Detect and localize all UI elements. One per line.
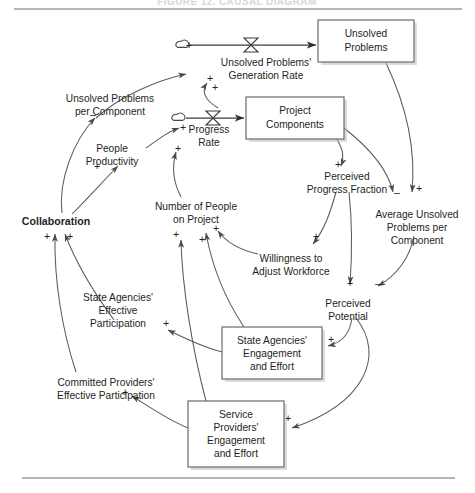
variable-committed-providers-effective-participation[interactable]: Committed Providers' Effective Participa… — [57, 377, 155, 401]
polarity-sign: + — [186, 39, 192, 51]
polarity-sign: + — [44, 230, 50, 242]
polarity-sign: + — [347, 277, 353, 289]
polarity-sign: – — [394, 186, 400, 198]
stock-label-line: Problems — [344, 42, 387, 53]
variable-label-line: Unsolved Problems — [66, 93, 154, 104]
stock-unsolved-problems[interactable]: Unsolved Problems — [318, 20, 417, 65]
variable-label-line: Potential — [328, 311, 368, 322]
cloud-icon-progress-rate — [172, 113, 185, 120]
polarity-sign: + — [199, 233, 205, 245]
link-nop-to-progress — [173, 152, 181, 197]
polarity-sign: + — [94, 160, 100, 172]
variable-label-line: Average Unsolved — [375, 209, 458, 220]
variable-label-line: Number of People — [155, 201, 237, 212]
polarity-sign: + — [285, 412, 291, 424]
variable-perceived-potential[interactable]: Perceived Potential — [325, 298, 371, 322]
variable-label-line: State Agencies' — [83, 292, 153, 303]
stock-label-line: Unsolved — [345, 28, 388, 39]
polarity-sign: + — [212, 81, 218, 93]
stock-layer: Unsolved Problems Project Components Sta… — [188, 20, 417, 470]
link-wtaw-to-nop — [218, 231, 258, 254]
variable-label-line: Problems per — [387, 222, 448, 233]
link-pc-to-aupc — [344, 128, 393, 192]
variable-label-line: People — [96, 143, 128, 154]
variable-label-line: Perceived — [324, 171, 370, 182]
link-spe-to-nop — [181, 240, 206, 401]
stock-state-agencies-engagement[interactable]: State Agencies' Engagement and Effort — [222, 327, 325, 382]
polarity-sign: + — [175, 142, 181, 154]
variable-label-line: Participation — [90, 318, 146, 329]
polarity-sign: + — [173, 228, 179, 240]
polarity-sign: + — [163, 317, 169, 329]
variable-label-line: Effective — [99, 305, 138, 316]
variable-perceived-progress-fraction[interactable]: Perceived Progress Fraction — [307, 171, 387, 195]
polarity-sign: + — [416, 182, 422, 194]
causal-loop-diagram: FIGURE 12. CAUSAL DIAGRAM — [0, 0, 475, 493]
variable-label-line: Progress Fraction — [307, 184, 387, 195]
stock-label-line: and Effort — [250, 361, 294, 372]
stock-label-line: State Agencies' — [237, 335, 307, 346]
link-collab-to-prod — [72, 166, 118, 214]
stock-label-line: Engagement — [243, 348, 301, 359]
link-sae-to-saep — [168, 330, 222, 352]
polarity-sign: + — [67, 230, 73, 242]
polarity-sign: – — [90, 108, 96, 120]
link-up-to-aupc — [386, 63, 413, 192]
variable-label-line: Willingness to — [260, 253, 323, 264]
link-ppf-to-pp — [349, 192, 351, 284]
stock-project-components[interactable]: Project Components — [246, 97, 347, 142]
stock-label-line: Providers' — [214, 422, 259, 433]
flow-label-unsolved-problems-generation-rate[interactable]: Unsolved Problems' Generation Rate — [221, 57, 311, 81]
stock-label-line: Project — [279, 105, 311, 116]
variable-label-line: Collaboration — [22, 215, 90, 227]
variable-state-agencies-effective-participation[interactable]: State Agencies' Effective Participation — [83, 292, 153, 329]
variable-number-of-people-on-project[interactable]: Number of People on Project — [155, 201, 237, 225]
flow-label-progress-rate[interactable]: Progress Rate — [189, 124, 230, 148]
variable-label-line: Effective Participation — [57, 390, 155, 401]
stock-label-line: Components — [266, 119, 324, 130]
stock-service-providers-engagement[interactable]: Service Providers' Engagement and Effort — [188, 401, 287, 470]
variable-label-line: per Component — [75, 106, 145, 117]
flow-label-line: Generation Rate — [229, 70, 304, 81]
figure-title: FIGURE 12. CAUSAL DIAGRAM — [157, 0, 316, 7]
variable-label-line: Committed Providers' — [57, 377, 154, 388]
polarity-sign: + — [313, 230, 319, 242]
variable-label-line: Component — [391, 235, 444, 246]
link-cpep-to-collab — [55, 234, 76, 372]
flow-label-line: Unsolved Problems' — [221, 57, 311, 68]
variable-collaboration[interactable]: Collaboration — [22, 215, 90, 227]
variable-unsolved-problems-per-component[interactable]: Unsolved Problems per Component — [66, 93, 154, 117]
variable-label-line: Adjust Workforce — [252, 266, 330, 277]
stock-label-line: Engagement — [207, 435, 265, 446]
figure-canvas: FIGURE 12. CAUSAL DIAGRAM — [0, 0, 475, 493]
stock-label-line: Service — [219, 409, 253, 420]
polarity-sign: + — [180, 121, 186, 133]
stock-label-line: and Effort — [214, 448, 258, 459]
flow-label-line: Rate — [198, 137, 220, 148]
polarity-sign: + — [335, 158, 341, 170]
polarity-sign: + — [213, 222, 219, 234]
variable-average-unsolved-problems-per-component[interactable]: Average Unsolved Problems per Component — [375, 209, 458, 246]
polarity-sign: + — [122, 386, 128, 398]
polarity-sign: – — [375, 277, 381, 289]
variable-willingness-to-adjust-workforce[interactable]: Willingness to Adjust Workforce — [252, 253, 330, 277]
variable-label-line: Perceived — [325, 298, 371, 309]
flow-label-line: Progress — [189, 124, 230, 135]
polarity-sign: + — [328, 333, 334, 345]
